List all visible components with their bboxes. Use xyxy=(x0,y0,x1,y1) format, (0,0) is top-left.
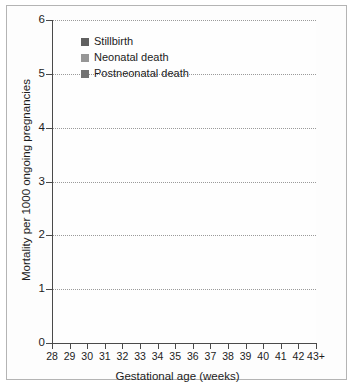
gridline-y-4 xyxy=(52,128,316,129)
legend-item-1: Neonatal death xyxy=(81,51,189,64)
gridline-y-1 xyxy=(52,289,316,290)
gridline-y-2 xyxy=(52,235,316,236)
y-tick-1 xyxy=(46,289,52,290)
x-tick-label-39: 39 xyxy=(240,351,252,362)
y-tick-6 xyxy=(46,20,52,21)
x-tick-label-30: 30 xyxy=(81,351,93,362)
x-tick-label-28: 28 xyxy=(46,351,58,362)
legend-item-2: Postneonatal death xyxy=(81,67,189,80)
legend-label: Stillbirth xyxy=(94,36,133,47)
x-tick-label-40: 40 xyxy=(257,351,269,362)
y-tick-3 xyxy=(46,182,52,183)
legend-swatch-icon xyxy=(81,54,89,62)
y-axis-line xyxy=(52,20,53,343)
x-tick-label-42: 42 xyxy=(293,351,305,362)
y-tick-2 xyxy=(46,235,52,236)
x-tick-32 xyxy=(122,343,123,349)
x-tick-28 xyxy=(52,343,53,349)
x-tick-label-32: 32 xyxy=(117,351,129,362)
y-tick-5 xyxy=(46,74,52,75)
legend-swatch-icon xyxy=(81,70,89,78)
x-tick-43+ xyxy=(316,343,317,349)
y-tick-label-0: 0 xyxy=(23,337,45,349)
x-tick-39 xyxy=(246,343,247,349)
x-tick-label-43+: 43+ xyxy=(307,351,325,362)
x-tick-label-35: 35 xyxy=(169,351,181,362)
x-tick-34 xyxy=(158,343,159,349)
x-tick-38 xyxy=(228,343,229,349)
x-tick-31 xyxy=(105,343,106,349)
x-tick-33 xyxy=(140,343,141,349)
legend-label: Neonatal death xyxy=(94,52,169,63)
legend-label: Postneonatal death xyxy=(94,68,189,79)
x-tick-36 xyxy=(193,343,194,349)
x-tick-label-31: 31 xyxy=(99,351,111,362)
x-tick-29 xyxy=(70,343,71,349)
gridline-y-3 xyxy=(52,182,316,183)
x-tick-label-34: 34 xyxy=(152,351,164,362)
x-tick-label-38: 38 xyxy=(222,351,234,362)
y-tick-4 xyxy=(46,128,52,129)
y-axis-title: Mortality per 1000 ongoing pregnancies xyxy=(20,65,32,295)
x-tick-label-33: 33 xyxy=(134,351,146,362)
x-axis-line xyxy=(52,343,316,344)
x-tick-label-41: 41 xyxy=(275,351,287,362)
x-tick-label-37: 37 xyxy=(205,351,217,362)
figure-frame: 0123456 28293031323334353637383940414243… xyxy=(6,5,347,380)
x-tick-40 xyxy=(263,343,264,349)
x-tick-30 xyxy=(87,343,88,349)
legend-item-0: Stillbirth xyxy=(81,35,189,48)
x-tick-label-29: 29 xyxy=(64,351,76,362)
x-axis-title: Gestational age (weeks) xyxy=(7,370,348,382)
x-tick-41 xyxy=(281,343,282,349)
gridline-y-6 xyxy=(52,20,316,21)
legend-swatch-icon xyxy=(81,38,89,46)
x-tick-42 xyxy=(298,343,299,349)
x-tick-35 xyxy=(175,343,176,349)
x-tick-label-36: 36 xyxy=(187,351,199,362)
y-tick-label-6: 6 xyxy=(23,14,45,26)
chart-legend: StillbirthNeonatal deathPostneonatal dea… xyxy=(81,35,189,83)
x-tick-37 xyxy=(210,343,211,349)
